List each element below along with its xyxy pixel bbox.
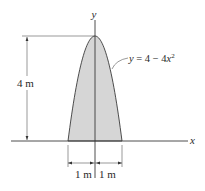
height-arrow-top <box>26 37 29 41</box>
y-axis-label: y <box>91 8 97 20</box>
equation-exponent: 2 <box>171 52 175 60</box>
equation-leader-line <box>112 58 128 69</box>
right-width-arrow-right <box>118 162 122 165</box>
left-width-arrow-left <box>68 162 72 165</box>
x-axis-label: x <box>189 134 195 146</box>
curve-equation-label: y = 4 − 4x2 <box>128 52 175 64</box>
height-arrow-bottom <box>26 136 29 140</box>
right-width-arrow-left <box>96 162 100 165</box>
height-dimension-label: 4 m <box>17 77 34 89</box>
parabolic-area-diagram: x y 4 m 1 m 1 m y = 4 − 4x2 <box>0 0 205 191</box>
left-width-label: 1 m <box>75 168 92 180</box>
right-width-label: 1 m <box>99 168 116 180</box>
left-width-arrow-right <box>90 162 94 165</box>
